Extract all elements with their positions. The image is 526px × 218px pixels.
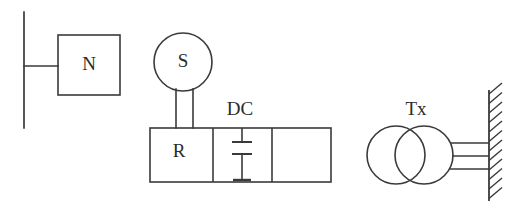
neutral-group: N bbox=[24, 12, 120, 128]
converter-group: R DC bbox=[150, 98, 331, 182]
wall-hatch-mark bbox=[489, 159, 502, 170]
wall-hatch-mark bbox=[489, 150, 502, 161]
wall-hatch-mark bbox=[489, 131, 502, 142]
source-group: S bbox=[154, 33, 212, 128]
wall-hatch-mark bbox=[489, 102, 502, 113]
schematic-diagram: N S R DC bbox=[0, 0, 526, 218]
wall-hatching bbox=[489, 83, 502, 199]
label-dc: DC bbox=[227, 98, 253, 119]
label-tx: Tx bbox=[405, 98, 427, 119]
transformer-circle-left bbox=[367, 126, 425, 184]
capacitor-icon bbox=[232, 128, 252, 180]
wall-hatch-mark bbox=[489, 188, 502, 199]
transformer-circle-right bbox=[395, 126, 453, 184]
diagram-canvas: N S R DC bbox=[0, 0, 526, 218]
wall-hatch-mark bbox=[489, 169, 502, 180]
wall-hatch-mark bbox=[489, 93, 502, 104]
wall-hatch-mark bbox=[489, 121, 502, 132]
label-n: N bbox=[82, 53, 96, 74]
wall-hatch-mark bbox=[489, 140, 502, 151]
wall-hatch-mark bbox=[489, 83, 502, 94]
label-s: S bbox=[178, 50, 189, 71]
label-r: R bbox=[173, 140, 186, 161]
transformer-group: Tx bbox=[367, 83, 502, 201]
wall-hatch-mark bbox=[489, 178, 502, 189]
wall-hatch-mark bbox=[489, 112, 502, 123]
